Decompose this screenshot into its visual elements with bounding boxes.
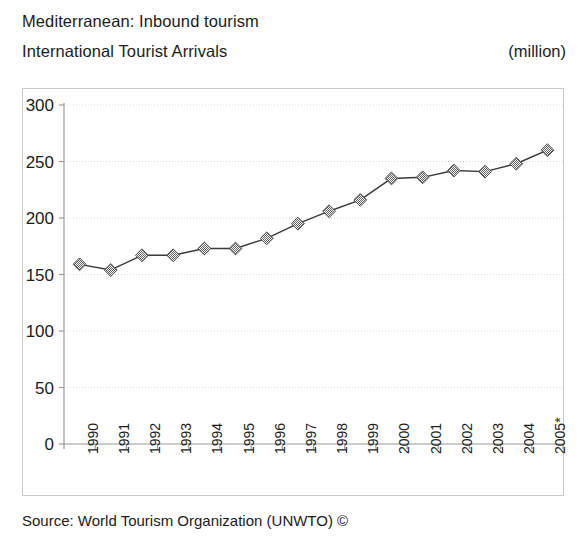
x-axis-tick-label: 1999: [366, 423, 380, 454]
x-axis-tick-label: 2004: [522, 423, 536, 454]
x-axis-tick-label: 1992: [148, 423, 162, 454]
chart-unit-label: (million): [508, 42, 566, 61]
chart-title-secondary: International Tourist Arrivals: [22, 42, 227, 61]
y-axis-tick-label: 0: [14, 436, 54, 453]
source-attribution: Source: World Tourism Organization (UNWT…: [22, 512, 348, 529]
x-axis-tick-label: 2000: [397, 423, 411, 454]
y-axis-tick-label: 150: [14, 267, 54, 284]
x-axis-tick-label: 1998: [335, 423, 349, 454]
x-axis-tick-label: 1994: [210, 423, 224, 454]
chart-plot-frame: [22, 88, 564, 496]
x-axis-tick-label: 2002: [460, 423, 474, 454]
x-axis-tick-label: 1995: [242, 423, 256, 454]
x-axis-tick-label: 1991: [117, 423, 131, 454]
y-axis-tick-label: 100: [14, 323, 54, 340]
y-axis-tick-label: 200: [14, 210, 54, 227]
y-axis-tick-label: 250: [14, 154, 54, 171]
chart-page: Mediterranean: Inbound tourism Internati…: [0, 0, 584, 537]
chart-title-primary: Mediterranean: Inbound tourism: [22, 12, 259, 31]
x-axis-tick-label: 1993: [179, 423, 193, 454]
x-axis-tick-label: 1990: [86, 423, 100, 454]
x-axis-tick-label: 2003: [491, 423, 505, 454]
y-axis-tick-label: 50: [14, 380, 54, 397]
x-axis-tick-label: 1996: [273, 423, 287, 454]
x-axis-tick-label: 2001: [429, 423, 443, 454]
y-axis-tick-label: 300: [14, 97, 54, 114]
x-axis-tick-label: 2005*: [553, 417, 567, 454]
x-axis-tick-label: 1997: [304, 423, 318, 454]
